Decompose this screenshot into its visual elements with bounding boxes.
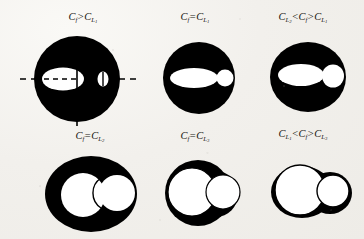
panel-3-caption-text: CL2<Cf>CL1 <box>278 11 327 22</box>
panel-5-svg <box>157 152 249 234</box>
inner-white-ellipse <box>278 64 324 86</box>
panel-3-caption: CL2<Cf>CL1 <box>233 11 364 24</box>
right-white-circle <box>99 175 135 211</box>
panel-5-graphic <box>157 152 249 234</box>
panel-4-caption-text: Cf=CL2 <box>75 130 104 141</box>
right-white-circle <box>317 175 349 207</box>
panel-6-caption: CL1<Cf>CL3 <box>233 128 364 141</box>
panel-6-graphic <box>264 152 360 234</box>
panel-4-graphic <box>38 150 150 236</box>
panel-1-svg <box>8 24 148 134</box>
panel-5-caption-text: Cf=CL3 <box>180 130 209 141</box>
panel-3-graphic <box>263 31 357 125</box>
panel-6-caption-text: CL1<Cf>CL3 <box>278 128 327 139</box>
panel-1-graphic <box>8 24 148 134</box>
panel-4-svg <box>38 150 150 236</box>
small-white-circle <box>217 70 234 87</box>
panel-2-caption-text: Cf=CL1 <box>180 11 209 22</box>
panel-2-graphic <box>155 33 247 125</box>
figure-canvas: Cf>CL1 Cf=CL1 <box>0 0 364 239</box>
panel-1-caption-text: Cf>CL1 <box>68 11 97 22</box>
inner-white-ellipse <box>170 68 218 88</box>
medium-white-circle <box>322 65 344 88</box>
panel-3-svg <box>263 31 357 125</box>
right-white-circle <box>206 175 240 209</box>
panel-6-svg <box>264 152 360 234</box>
panel-2-svg <box>155 33 247 125</box>
